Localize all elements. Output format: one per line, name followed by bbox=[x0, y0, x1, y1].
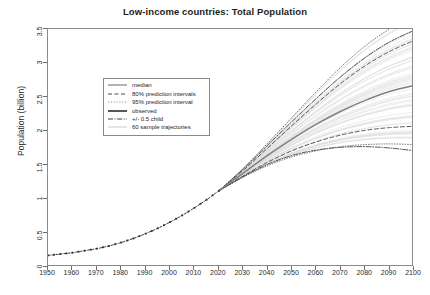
legend-label: median bbox=[132, 81, 152, 89]
observed-marker bbox=[72, 252, 74, 254]
x-tick-label: 1950 bbox=[34, 269, 60, 276]
legend-item: median bbox=[107, 81, 206, 89]
sample-trajectory bbox=[219, 131, 413, 191]
chart-legend: median80% prediction intervals95% predic… bbox=[103, 78, 210, 136]
y-axis-label: Population (billion) bbox=[16, 61, 26, 181]
chart-figure: Low-income countries: Total Population P… bbox=[0, 0, 430, 295]
observed-marker bbox=[65, 253, 67, 255]
observed-marker bbox=[181, 214, 183, 216]
legend-item: 95% prediction interval bbox=[107, 98, 206, 106]
x-tick-mark bbox=[96, 266, 97, 270]
observed-marker bbox=[78, 251, 80, 253]
x-tick-label: 2010 bbox=[180, 269, 206, 276]
x-tick-mark bbox=[413, 266, 414, 270]
x-tick-mark bbox=[340, 266, 341, 270]
x-tick-label: 1970 bbox=[83, 269, 109, 276]
observed-marker bbox=[90, 249, 92, 251]
observed-marker bbox=[163, 224, 165, 226]
observed-marker bbox=[102, 246, 104, 248]
x-tick-mark bbox=[242, 266, 243, 270]
sample-trajectory bbox=[219, 123, 413, 191]
observed-marker bbox=[84, 250, 86, 252]
observed-marker bbox=[187, 211, 189, 213]
chart-canvas bbox=[48, 29, 413, 266]
x-tick-label: 2020 bbox=[205, 269, 231, 276]
observed-marker bbox=[200, 203, 202, 205]
observed-marker bbox=[175, 218, 177, 220]
sample-trajectory bbox=[219, 133, 413, 190]
observed-marker bbox=[206, 199, 208, 201]
x-tick-label: 2070 bbox=[327, 269, 353, 276]
observed-marker bbox=[145, 233, 147, 235]
legend-item: +/- 0.5 child bbox=[107, 115, 206, 123]
legend-swatch-dash-dot bbox=[107, 115, 128, 123]
x-tick-mark bbox=[267, 266, 268, 270]
x-tick-mark bbox=[315, 266, 316, 270]
observed-marker bbox=[48, 255, 49, 257]
observed-marker bbox=[96, 248, 98, 250]
sample-trajectory bbox=[219, 116, 413, 191]
x-tick-mark bbox=[120, 266, 121, 270]
pi80-lower bbox=[219, 126, 413, 191]
observed-marker bbox=[194, 207, 196, 209]
x-tick-label: 1990 bbox=[132, 269, 158, 276]
observed-marker bbox=[108, 245, 110, 247]
legend-swatch-solid-thin bbox=[107, 123, 128, 131]
x-tick-mark bbox=[169, 266, 170, 270]
sample-trajectories-group bbox=[219, 29, 413, 191]
legend-swatch-solid bbox=[107, 81, 128, 89]
x-tick-mark bbox=[291, 266, 292, 270]
legend-swatch-solid-thick bbox=[107, 107, 128, 115]
legend-item: 60 sample trajectories bbox=[107, 123, 206, 131]
observed-marker bbox=[139, 235, 141, 237]
sample-trajectory bbox=[219, 116, 413, 191]
observed-marker bbox=[133, 238, 135, 240]
x-tick-mark bbox=[47, 266, 48, 270]
sample-trajectory bbox=[219, 134, 413, 191]
observed-marker bbox=[120, 242, 122, 244]
x-tick-label: 2030 bbox=[229, 269, 255, 276]
observed-marker bbox=[151, 230, 153, 232]
x-tick-mark bbox=[71, 266, 72, 270]
x-tick-mark bbox=[389, 266, 390, 270]
x-tick-label: 1980 bbox=[107, 269, 133, 276]
observed-marker bbox=[218, 190, 220, 192]
observed-marker bbox=[59, 253, 61, 255]
observed-marker bbox=[126, 240, 128, 242]
observed-marker bbox=[114, 243, 116, 245]
x-tick-label: 2080 bbox=[351, 269, 377, 276]
observed-marker bbox=[212, 194, 214, 196]
legend-item: observed bbox=[107, 107, 206, 115]
observed-marker bbox=[169, 221, 171, 223]
chart-title: Low-income countries: Total Population bbox=[0, 6, 430, 17]
x-tick-label: 2060 bbox=[302, 269, 328, 276]
observed-marker bbox=[53, 254, 55, 256]
x-tick-label: 2000 bbox=[156, 269, 182, 276]
x-tick-mark bbox=[364, 266, 365, 270]
plot-area bbox=[47, 28, 413, 266]
x-tick-mark bbox=[218, 266, 219, 270]
x-tick-label: 1960 bbox=[58, 269, 84, 276]
legend-label: +/- 0.5 child bbox=[132, 115, 163, 123]
legend-item: 80% prediction intervals bbox=[107, 90, 206, 98]
observed-path bbox=[48, 191, 219, 256]
legend-label: 60 sample trajectories bbox=[132, 123, 191, 131]
x-tick-mark bbox=[145, 266, 146, 270]
legend-swatch-dotted bbox=[107, 98, 128, 106]
legend-label: observed bbox=[132, 107, 157, 115]
x-tick-label: 2090 bbox=[376, 269, 402, 276]
legend-label: 95% prediction interval bbox=[132, 98, 193, 106]
observed-line bbox=[48, 190, 220, 256]
x-tick-label: 2040 bbox=[254, 269, 280, 276]
x-tick-label: 2050 bbox=[278, 269, 304, 276]
legend-label: 80% prediction intervals bbox=[132, 90, 196, 98]
x-tick-label: 2100 bbox=[400, 269, 426, 276]
x-tick-mark bbox=[193, 266, 194, 270]
observed-marker bbox=[157, 227, 159, 229]
legend-swatch-dashed bbox=[107, 90, 128, 98]
